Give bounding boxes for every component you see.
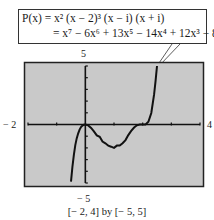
- y-max-label: 5: [81, 48, 86, 59]
- equation-expanded: = x⁷ − 6x⁶ + 13x⁵ − 14x⁴ + 12x³ − 8x²: [53, 27, 214, 40]
- y-min-label: − 5: [77, 193, 90, 204]
- x-max-label: 4: [207, 119, 212, 130]
- equation-factored: P(x) = x² (x − 2)³ (x − i) (x + i): [22, 12, 164, 25]
- equation-callout: P(x) = x² (x − 2)³ (x − i) (x + i) = x⁷ …: [18, 9, 207, 44]
- window-caption: [− 2, 4] by [− 5, 5]: [0, 206, 214, 217]
- x-min-label: − 2: [3, 119, 16, 130]
